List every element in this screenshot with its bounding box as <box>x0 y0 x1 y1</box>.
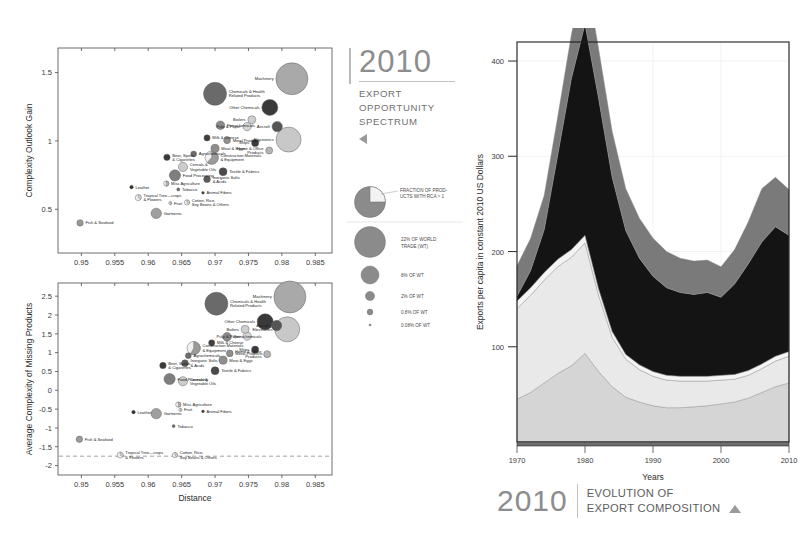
bubble-label: & Flowers <box>125 455 143 460</box>
scatter-charts-panel: 0.950.9550.960.9650.970.9750.980.9850.51… <box>0 0 350 542</box>
evolution-of-export-composition: 19701980199020002010100200300400Exports … <box>475 28 797 482</box>
bubble-garments <box>151 208 161 218</box>
y-tick-label: 300 <box>491 152 504 161</box>
caption-line-1: EXPORT <box>359 87 479 101</box>
bubble-food-processing <box>164 373 175 384</box>
bubble-label: Aircraft <box>257 124 271 129</box>
bubble-other-chemicals <box>262 99 278 115</box>
bubble-milk-cheese <box>204 135 210 141</box>
legend-size-sublabel-0: TRADE (WT) <box>401 244 429 249</box>
bubble-label: & Flowers <box>143 197 161 202</box>
bubble-textile-fabrics <box>211 367 219 375</box>
bubble-label: Related Products <box>229 93 260 98</box>
bubble-label: & Cigarettes <box>172 157 195 162</box>
y-tick-label: 1.5 <box>42 68 52 77</box>
caption-bottom-line-2-wrap: EXPORT COMPOSITION <box>587 501 742 516</box>
bubble-label: Leather <box>138 410 153 415</box>
export-composition-chart: 19701980199020002010100200300400Exports … <box>462 28 802 528</box>
legend-size-label-1: 8% OF WT <box>401 273 424 278</box>
x-tick-label: 0.97 <box>208 480 223 489</box>
x-tick-label: 0.95 <box>74 258 89 267</box>
legend-size-circle-2 <box>365 291 374 300</box>
y-tick-label: -1.5 <box>39 443 52 452</box>
bubble-fruit-wedge <box>170 202 172 205</box>
bubble-aircraft <box>271 320 281 330</box>
x-tick-label: 1970 <box>509 456 526 465</box>
x-tick-label: 0.96 <box>141 258 156 267</box>
bubble-label: Products <box>247 150 263 155</box>
bubble-machinery <box>276 63 308 95</box>
x-tick-label: 0.955 <box>105 480 124 489</box>
bubble-label: Agrochemicals <box>199 151 226 156</box>
complexity-outlook-gain: 0.950.9550.960.9650.970.9750.980.9850.51… <box>24 48 332 267</box>
y-tick-label: 0 <box>48 386 52 395</box>
bubble-label: Metal Products <box>235 351 262 356</box>
bubble-garments <box>151 408 161 418</box>
bubble-leather <box>132 410 136 414</box>
triangle-left-icon <box>359 134 367 144</box>
bubble-label: Garments <box>164 211 182 216</box>
caption-bottom-year: 2010 <box>497 486 568 516</box>
bubble-label: Garments <box>164 411 182 416</box>
bubble-label: & Equipment <box>221 157 245 162</box>
bubble-label: & Acids <box>213 179 227 184</box>
bubble-label: Vegetable Oils <box>190 381 216 386</box>
bubble-label: Pulp & Paper <box>217 334 242 339</box>
y-tick-label: 1 <box>48 137 52 146</box>
legend-size-label-2: 2% OF WT <box>401 294 424 299</box>
triangle-up-icon <box>729 505 741 513</box>
legend-size-circle-0 <box>355 227 386 258</box>
x-tick-label: 0.965 <box>172 480 191 489</box>
bubble-label: Fish & Seafood <box>85 220 114 225</box>
x-tick-label: 1980 <box>577 456 594 465</box>
bubble-size-legend: FRACTION OF PROD-UCTS WITH RCA > 122% OF… <box>345 180 475 360</box>
x-tick-label: 0.96 <box>141 480 156 489</box>
y-tick-label: 0.5 <box>42 367 52 376</box>
bubble-label: Animal Fibers <box>207 409 232 414</box>
bubble-label: Misc Agriculture <box>183 402 213 407</box>
y-axis-title: Complexity Outlook Gain <box>24 103 34 197</box>
bubble-label: Boilers <box>226 327 239 332</box>
bubble-metal-products <box>226 350 233 357</box>
bubble-label: Pulp & Paper <box>217 124 242 129</box>
bubble-label: Tobacco <box>182 187 198 192</box>
poster-page: 0.950.9550.960.9650.970.9750.980.9850.51… <box>0 0 807 542</box>
y-tick-label: 1.5 <box>42 330 52 339</box>
bubble-label: Other Chemicals <box>224 319 255 324</box>
x-tick-label: 0.97 <box>208 258 223 267</box>
caption-year: 2010 <box>359 46 479 77</box>
x-tick-label: 0.98 <box>275 480 290 489</box>
y-tick-label: -0.5 <box>39 405 52 414</box>
bubble-label: Leather <box>136 185 151 190</box>
x-tick-label: 2010 <box>781 456 798 465</box>
bubble-tobacco <box>172 424 175 427</box>
x-tick-label: 0.975 <box>239 258 258 267</box>
average-complexity-of-missing-products: 0.950.9550.960.9650.970.9750.980.9852.52… <box>24 281 332 503</box>
bubble-label: Soy Beans & Others <box>180 455 217 460</box>
bubble-label: Vegetable Oils <box>190 167 216 172</box>
bubble-fish-seafood <box>76 436 82 442</box>
x-tick-label: 0.985 <box>306 480 325 489</box>
caption-evolution-of-export-composition: 2010 EVOLUTION OF EXPORT COMPOSITION <box>497 484 741 518</box>
legend-pie-note-line-1: FRACTION OF PROD- <box>400 188 448 193</box>
bubble-leather <box>130 185 134 189</box>
bubble-label: Boilers <box>233 117 246 122</box>
y-tick-label: 1 <box>48 348 52 357</box>
bubble-label: Textile & Fabrics <box>221 368 251 373</box>
bubble-aircraft <box>272 121 282 131</box>
legend-pie-wedge <box>370 187 386 203</box>
bubble-label: Textile & Fabrics <box>229 169 259 174</box>
caption-accent-bar <box>349 48 351 84</box>
legend-pie-note-line-2: UCTS WITH RCA > 1 <box>400 194 444 199</box>
legend-size-label-0: 22% OF WORLD <box>401 237 437 242</box>
legend-size-circle-3 <box>367 309 373 315</box>
caption-divider <box>359 81 455 82</box>
bubble-chemicals-health <box>205 292 228 315</box>
bubble-label: Milk & Cheese <box>217 340 244 345</box>
bubble-label: Tobacco <box>177 424 193 429</box>
bubble-label: Agrochemicals <box>194 353 221 358</box>
bubble-label: Fish & Seafood <box>85 437 114 442</box>
x-tick-label: 0.98 <box>275 258 290 267</box>
bubble-label: & Cigarettes <box>168 365 191 370</box>
x-axis-title: Distance <box>178 493 211 503</box>
